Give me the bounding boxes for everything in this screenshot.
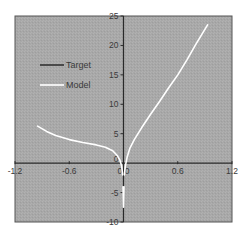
chart: -1.2-0.60.00.61.2252015105-5-100 TargetM…	[0, 0, 245, 237]
y-tick-label: 20	[109, 40, 119, 50]
series-model-line	[123, 187, 124, 208]
x-tick-label: 0.6	[172, 166, 184, 176]
legend-label-model: Model	[66, 80, 91, 90]
y-tick-label: 5	[114, 129, 119, 139]
x-tick-label: 1.2	[226, 166, 238, 176]
legend-label-target: Target	[66, 60, 92, 70]
y-tick-label: -5	[111, 188, 119, 198]
y-tick-label: 15	[109, 70, 119, 80]
y-tick-label: -10	[106, 217, 119, 227]
x-tick-label: -1.2	[8, 166, 23, 176]
y-tick-label: 25	[109, 11, 119, 21]
x-tick-label: -0.6	[62, 166, 77, 176]
y-tick-label: 10	[109, 99, 119, 109]
